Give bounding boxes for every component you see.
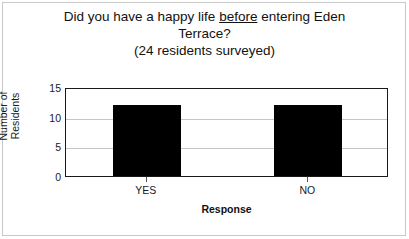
chart-title-prefix: Did you have a happy life [64,9,219,24]
y-tick-label: 10 [39,113,61,123]
chart-title: Did you have a happy life before enterin… [30,8,379,59]
chart-title-line-3: (24 residents surveyed) [30,42,379,59]
x-tick [307,177,308,182]
y-axis-title-line-2: Residents [9,77,21,155]
plot-area [65,88,388,177]
chart-title-emphasis: before [219,9,257,24]
x-category-label: YES [135,184,156,196]
y-axis-title-line-1: Number of [0,77,9,155]
x-axis-title: Response [65,203,388,215]
y-tick-label: 0 [39,172,61,182]
chart-page: Did you have a happy life before enterin… [0,0,409,239]
chart-title-suffix: entering Eden [257,9,345,24]
bar-yes [113,105,181,176]
y-axis-tick-labels: 151050 [37,88,61,177]
x-category-label: NO [299,184,315,196]
y-tick-label: 15 [39,83,61,93]
y-tick-label: 5 [39,142,61,152]
x-tick [146,177,147,182]
y-axis-title: Number of Residents [0,77,37,155]
chart-title-line-1: Did you have a happy life before enterin… [30,8,379,25]
bars-layer [66,89,387,176]
chart-title-line-2: Terrace? [30,25,379,42]
bar-no [274,105,342,176]
